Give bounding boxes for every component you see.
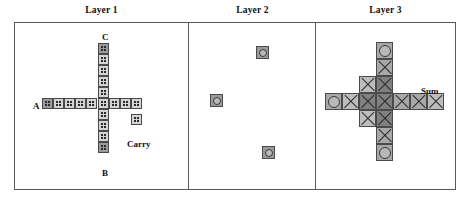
panel-layer-2 [188, 22, 316, 190]
grid-cell [359, 110, 376, 127]
grid-cell [98, 65, 109, 76]
x-cross-icon [411, 94, 426, 109]
grid-cell [53, 98, 64, 109]
grid-cell [359, 93, 376, 110]
grid-cell [64, 98, 75, 109]
grid-cell [210, 94, 223, 107]
grid-cell [42, 98, 53, 109]
grid-cell [376, 110, 393, 127]
x-cross-icon [377, 128, 392, 143]
grid-cell [131, 114, 142, 125]
grid-cell [86, 98, 97, 109]
grid-cell [98, 54, 109, 65]
grid-cell [98, 43, 109, 54]
grid-cell [376, 76, 393, 93]
grid-cell [376, 59, 393, 76]
four-dot-icon [99, 55, 108, 64]
circle-icon [265, 149, 273, 157]
x-cross-icon [428, 94, 443, 109]
grid-cell [256, 46, 269, 59]
grid-cell [98, 87, 109, 98]
x-cross-icon [360, 111, 375, 126]
x-cross-icon [377, 60, 392, 75]
four-dot-icon [65, 99, 74, 108]
four-dot-icon [99, 77, 108, 86]
four-dot-icon [99, 143, 108, 152]
panel-title-layer-2: Layer 2 [194, 5, 311, 15]
label-sum: Sum [421, 86, 439, 96]
panel-title-layer-1: Layer 1 [43, 5, 160, 15]
four-dot-icon [99, 110, 108, 119]
x-cross-icon [360, 94, 375, 109]
x-cross-icon [377, 77, 392, 92]
grid-cell [120, 98, 131, 109]
grid-cell [376, 144, 393, 161]
panel-title-layer-3: Layer 3 [327, 5, 444, 15]
x-cross-icon [377, 111, 392, 126]
grid-cell [131, 98, 142, 109]
four-dot-icon [54, 99, 63, 108]
four-dot-icon [43, 99, 52, 108]
grid-cell [98, 109, 109, 120]
four-dot-icon [99, 44, 108, 53]
circle-icon [328, 96, 340, 108]
x-cross-icon [394, 94, 409, 109]
grid-cell [98, 98, 109, 109]
grid-cell [359, 76, 376, 93]
grid-cell [262, 146, 275, 159]
label-c: C [102, 32, 109, 42]
grid-cell [376, 127, 393, 144]
four-dot-icon [121, 99, 130, 108]
grid-cell [75, 98, 86, 109]
four-dot-icon [132, 99, 141, 108]
four-dot-icon [76, 99, 85, 108]
grid-cell [98, 142, 109, 153]
grid-cell [393, 93, 410, 110]
circle-icon [379, 45, 391, 57]
label-b: B [102, 168, 108, 178]
panel-layer-1: CABCarry [14, 22, 189, 190]
grid-cell [342, 93, 359, 110]
grid-cell [376, 93, 393, 110]
circle-icon [213, 97, 221, 105]
four-dot-icon [99, 132, 108, 141]
label-a: A [33, 101, 40, 111]
grid-cell [98, 120, 109, 131]
four-dot-icon [99, 121, 108, 130]
panel-layer-3: Sum [315, 22, 456, 190]
four-dot-icon [110, 99, 119, 108]
grid-cell [109, 98, 120, 109]
label-carry: Carry [127, 139, 151, 149]
four-dot-icon [132, 115, 141, 124]
four-dot-icon [99, 88, 108, 97]
four-dot-icon [87, 99, 96, 108]
grid-cell [98, 76, 109, 87]
four-dot-icon [99, 99, 108, 108]
x-cross-icon [343, 94, 358, 109]
grid-cell [325, 93, 342, 110]
three-layer-cellular-automaton-figure: Layer 1 Layer 2 Layer 3 CABCarry Sum [0, 0, 471, 208]
circle-icon [259, 49, 267, 57]
grid-cell [98, 131, 109, 142]
grid-cell [376, 42, 393, 59]
x-cross-icon [377, 94, 392, 109]
x-cross-icon [360, 77, 375, 92]
four-dot-icon [99, 66, 108, 75]
circle-icon [379, 147, 391, 159]
